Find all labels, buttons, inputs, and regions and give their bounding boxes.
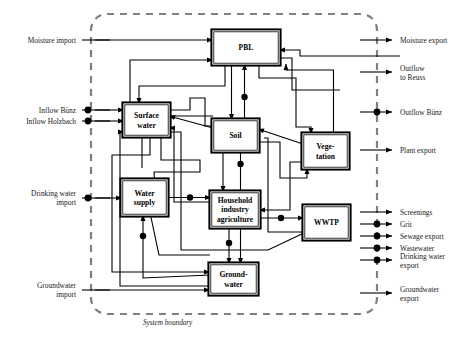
import-label-groundwater-import: Groundwater bbox=[37, 281, 77, 290]
process-box-label-pbl: PBL bbox=[239, 43, 254, 52]
flow-node-dot bbox=[226, 240, 232, 246]
process-box-label-surface: Surface bbox=[134, 111, 160, 120]
export-label-screenings: Screenings bbox=[400, 208, 433, 217]
process-box-label-watersupply: supply bbox=[134, 198, 156, 207]
system-boundary-label: System boundary bbox=[143, 319, 193, 327]
process-box-pbl[interactable]: PBL bbox=[211, 29, 280, 65]
export-label-outflow-buenz: Outflow Bünz bbox=[400, 108, 443, 117]
process-box-soil[interactable]: Soil bbox=[211, 118, 259, 152]
process-box-label-vegetation: tation bbox=[316, 152, 336, 161]
process-box-groundwater[interactable]: Ground-water bbox=[208, 262, 258, 295]
export-label-moisture-export: Moisture export bbox=[400, 36, 448, 45]
export-label-plant-export: Plant export bbox=[400, 146, 437, 155]
import-dot-inflow-holzbach bbox=[85, 118, 92, 125]
process-box-household[interactable]: Householdindustryagriculture bbox=[209, 190, 260, 228]
export-dot-outflow-buenz bbox=[374, 109, 381, 116]
import-dot-inflow-buenz bbox=[85, 107, 92, 114]
process-box-wwtp[interactable]: WWTP bbox=[302, 204, 350, 240]
process-box-watersupply[interactable]: Watersupply bbox=[120, 178, 168, 216]
import-label-drinking-water-import: import bbox=[56, 198, 77, 207]
export-dot-sewage-export bbox=[374, 233, 381, 240]
diagram-canvas: System boundary PBLSurfacewaterSoilVege-… bbox=[0, 0, 476, 339]
process-box-vegetation[interactable]: Vege-tation bbox=[301, 132, 349, 169]
process-box-label-household: Household bbox=[218, 196, 253, 205]
export-label-drinking-water-export: export bbox=[400, 261, 420, 270]
flow-node-dot bbox=[140, 233, 146, 239]
export-label-grit: Grit bbox=[400, 220, 413, 229]
import-label-inflow-holzbach: Inflow Holzbach bbox=[26, 117, 76, 126]
system-flow-diagram: System boundary PBLSurfacewaterSoilVege-… bbox=[0, 0, 476, 339]
flow-node-dot bbox=[187, 194, 193, 200]
process-box-label-watersupply: Water bbox=[134, 189, 155, 198]
flow-node-dot bbox=[237, 161, 243, 167]
process-box-label-wwtp: WWTP bbox=[314, 218, 339, 227]
import-label-drinking-water-import: Drinking water bbox=[31, 189, 76, 198]
process-box-label-household: agriculture bbox=[217, 215, 254, 224]
import-label-inflow-buenz: Inflow Bünz bbox=[39, 106, 77, 115]
process-box-label-soil: Soil bbox=[229, 131, 241, 140]
process-box-label-groundwater: Ground- bbox=[219, 270, 248, 279]
export-label-groundwater-export: Groundwater bbox=[400, 285, 440, 294]
process-box-surface[interactable]: Surfacewater bbox=[122, 102, 170, 137]
export-label-outflow-to-reuss: Outflow bbox=[400, 64, 425, 73]
import-label-groundwater-import: import bbox=[56, 290, 77, 299]
process-box-label-surface: water bbox=[137, 121, 156, 130]
process-box-label-vegetation: Vege- bbox=[317, 142, 335, 151]
export-dot-wastewater bbox=[374, 245, 381, 252]
export-dot-grit bbox=[374, 221, 381, 228]
export-dot-drinking-water-export bbox=[374, 257, 381, 264]
export-label-outflow-to-reuss: to Reuss bbox=[400, 73, 425, 82]
import-label-moisture-import: Moisture import bbox=[28, 36, 77, 45]
flow-node-dot bbox=[278, 215, 284, 221]
flow-node-dot bbox=[241, 94, 247, 100]
process-box-label-household: industry bbox=[221, 205, 249, 214]
process-box-label-groundwater: water bbox=[224, 280, 243, 289]
import-dot-drinking-water-import bbox=[85, 195, 92, 202]
export-label-groundwater-export: export bbox=[400, 294, 420, 303]
export-label-drinking-water-export: Drinking water bbox=[400, 252, 445, 261]
export-label-sewage-export: Sewage export bbox=[400, 232, 445, 241]
